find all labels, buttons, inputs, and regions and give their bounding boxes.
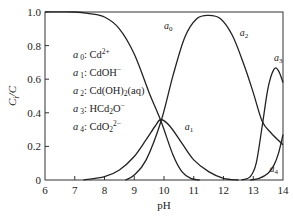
legend-entry-a1: a 1: CdOH−	[73, 65, 121, 80]
y-tick-label: 0.6	[27, 73, 41, 85]
curve-a2	[125, 15, 283, 180]
curve-labels: a0a1a2a3a4	[164, 20, 283, 176]
x-tick-label: 6	[42, 184, 48, 196]
curve-label-a0: a0	[164, 20, 173, 33]
x-tick-label: 13	[248, 184, 260, 196]
curve-label-a4: a4	[270, 163, 279, 176]
x-axis-label: pH	[157, 199, 171, 211]
x-tick-label: 12	[218, 184, 229, 196]
x-tick-label: 9	[132, 184, 138, 196]
x-tick-label: 7	[72, 184, 78, 196]
y-tick-label: 0.8	[27, 40, 41, 52]
legend: a 0: Cd2+a 1: CdOH−a 2: Cd(OH)2(aq)a 3: …	[73, 47, 145, 134]
x-tick-label: 11	[188, 184, 199, 196]
y-axis-label: Ci/C	[6, 85, 21, 106]
legend-entry-a0: a 0: Cd2+	[73, 47, 110, 62]
y-tick-label: 0.4	[27, 107, 41, 119]
legend-entry-a4: a 4: CdO22−	[73, 119, 121, 134]
y-tick-label: 0	[36, 174, 42, 186]
curve-label-a2: a2	[240, 27, 249, 40]
legend-entry-a3: a 3: HCd2O−	[73, 101, 125, 116]
speciation-chart: 67891011121314 00.20.40.60.81.0 a0a1a2a3…	[0, 0, 293, 219]
y-tick-label: 1.0	[27, 6, 41, 18]
x-axis-ticks: 67891011121314	[42, 176, 289, 196]
x-tick-label: 10	[159, 184, 171, 196]
curve-label-a1: a1	[185, 121, 194, 134]
legend-entry-a2: a 2: Cd(OH)2(aq)	[73, 85, 145, 98]
curve-a3	[241, 68, 283, 180]
y-axis-ticks: 00.20.40.60.81.0	[27, 6, 49, 186]
y-tick-label: 0.2	[27, 140, 41, 152]
x-tick-label: 14	[278, 184, 290, 196]
x-tick-label: 8	[102, 184, 108, 196]
curve-label-a3: a3	[274, 52, 283, 65]
